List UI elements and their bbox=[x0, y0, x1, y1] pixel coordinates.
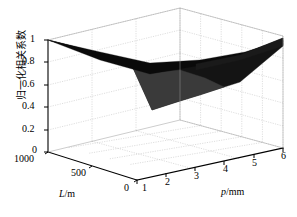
surface-plot-figure: 归一化相关系数 1 0.8 0.6 0.4 0.2 0 1000 500 0 1… bbox=[0, 0, 297, 217]
y-tick-marks bbox=[45, 152, 137, 182]
y-axis-title: L/m bbox=[59, 188, 75, 199]
y-tick-label-1000: 1000 bbox=[14, 153, 34, 164]
floorline-p-4 bbox=[110, 137, 242, 159]
z-tick-label-1: 1 bbox=[30, 33, 35, 44]
x-tick-label-5: 5 bbox=[252, 157, 257, 168]
floorline-L-500 bbox=[136, 131, 239, 159]
y-axis-title-unit: /m bbox=[65, 188, 76, 199]
y-tick-label-0: 0 bbox=[124, 182, 129, 193]
x-tick-label-2: 2 bbox=[165, 176, 170, 187]
x-tick-label-4: 4 bbox=[223, 163, 228, 174]
x-tick-label-1: 1 bbox=[142, 182, 147, 193]
z-tick-label-0-6: 0.6 bbox=[22, 78, 35, 89]
box-top-left-edge bbox=[48, 8, 180, 40]
box-floor-back-edge bbox=[180, 120, 283, 148]
floorline-p-2 bbox=[69, 126, 201, 148]
x-axis-title-unit: /mm bbox=[226, 186, 244, 197]
x-tick-label-6: 6 bbox=[281, 150, 286, 161]
ytick-500 bbox=[89, 166, 92, 168]
y-axis-line bbox=[48, 152, 137, 180]
floorline-p-5 bbox=[130, 142, 262, 164]
floorline-L-750 bbox=[92, 141, 195, 169]
x-tick-label-3: 3 bbox=[194, 170, 199, 181]
z-tick-marks bbox=[44, 40, 48, 152]
box-top-right-edge bbox=[180, 8, 283, 36]
x-axis-line bbox=[137, 148, 283, 180]
y-tick-label-500: 500 bbox=[71, 167, 86, 178]
z-tick-label-0-8: 0.8 bbox=[22, 55, 35, 66]
floor-grid bbox=[69, 120, 283, 169]
x-axis-title: p/mm bbox=[221, 186, 244, 197]
z-tick-label-0-4: 0.4 bbox=[22, 100, 35, 111]
x-tick-marks bbox=[137, 148, 283, 184]
floorline-p-3 bbox=[89, 131, 221, 153]
gridline-zr-0.2 bbox=[180, 98, 283, 126]
plot-canvas bbox=[0, 0, 297, 217]
z-tick-label-0-2: 0.2 bbox=[22, 123, 35, 134]
